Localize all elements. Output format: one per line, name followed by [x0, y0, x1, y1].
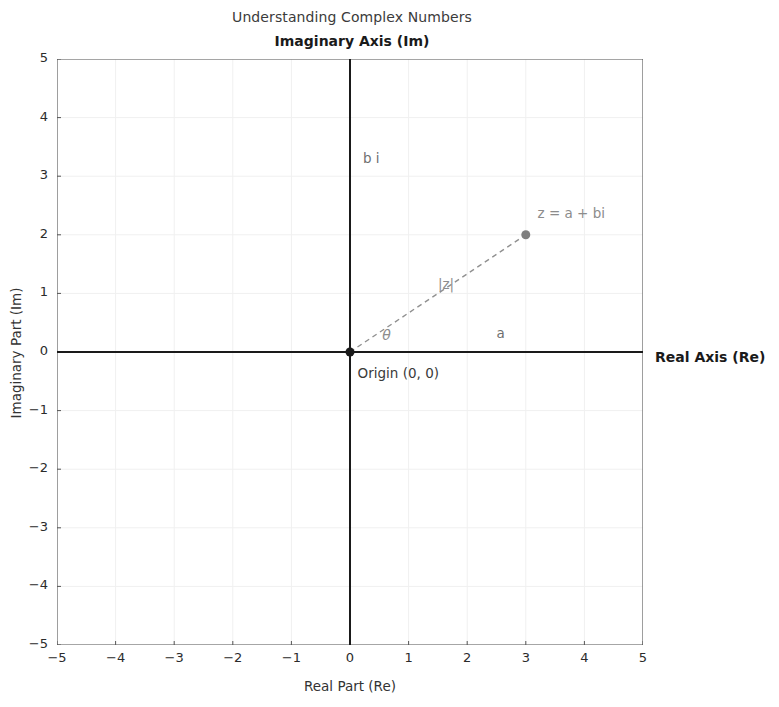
y-tick-label: 1	[8, 284, 48, 299]
x-tick-label: 4	[564, 650, 604, 665]
x-tick-label: −4	[96, 650, 136, 665]
page-title: Understanding Complex Numbers	[0, 9, 704, 25]
y-tick-label: 0	[8, 343, 48, 358]
y-tick-label: 5	[8, 50, 48, 65]
x-tick-label: 0	[330, 650, 370, 665]
y-tick-label: 4	[8, 109, 48, 124]
y-tick-label: 3	[8, 167, 48, 182]
origin-label: Origin (0, 0)	[358, 365, 439, 381]
plot-area	[57, 59, 643, 645]
x-axis-label: Real Part (Re)	[0, 678, 700, 694]
imaginary-axis-name: Imaginary Axis (Im)	[0, 33, 704, 49]
point-label-z: z = a + bi	[538, 205, 605, 221]
x-tick-label: −2	[213, 650, 253, 665]
x-tick-label: 1	[389, 650, 429, 665]
modulus-label: |z|	[438, 276, 454, 292]
y-tick-label: −1	[8, 402, 48, 417]
plot-canvas	[57, 59, 643, 645]
real-axis-name: Real Axis (Re)	[655, 349, 765, 365]
x-tick-label: −1	[271, 650, 311, 665]
y-tick-label: −5	[8, 636, 48, 651]
x-tick-label: 3	[506, 650, 546, 665]
y-tick-label: −2	[8, 460, 48, 475]
y-tick-label: 2	[8, 226, 48, 241]
angle-label-theta: θ	[382, 327, 391, 343]
real-component-label: a	[497, 325, 505, 341]
x-tick-label: 5	[623, 650, 663, 665]
y-tick-label: −3	[8, 519, 48, 534]
x-tick-label: 2	[447, 650, 487, 665]
imaginary-component-label: b i	[363, 150, 380, 166]
x-tick-label: −5	[37, 650, 77, 665]
y-tick-label: −4	[8, 577, 48, 592]
complex-plane-figure: Understanding Complex Numbers Imaginary …	[0, 0, 779, 707]
x-tick-label: −3	[154, 650, 194, 665]
